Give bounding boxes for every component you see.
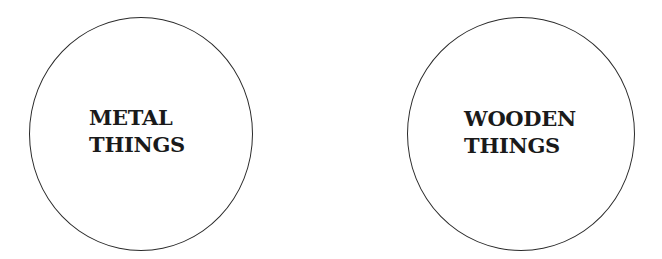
- label-line-2: THINGS: [464, 132, 576, 159]
- circle-label: METAL THINGS: [89, 104, 185, 158]
- label-line-2: THINGS: [89, 131, 185, 158]
- circle-wooden-things: WOODEN THINGS: [407, 17, 635, 251]
- label-line-1: METAL: [89, 104, 185, 131]
- label-line-1: WOODEN: [464, 105, 576, 132]
- circle-metal-things: METAL THINGS: [29, 17, 253, 251]
- circle-label: WOODEN THINGS: [464, 105, 576, 159]
